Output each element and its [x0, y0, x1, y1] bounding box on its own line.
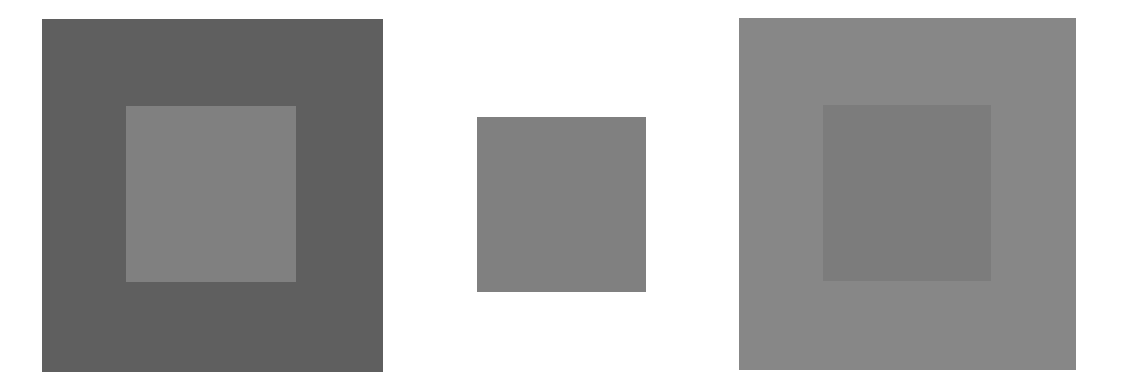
left-gray-center-square	[126, 106, 296, 282]
right-gray-center-square	[823, 105, 991, 281]
center-isolated-gray-square	[477, 117, 646, 292]
right-light-surround-square	[739, 18, 1076, 370]
left-dark-surround-square	[42, 19, 383, 372]
